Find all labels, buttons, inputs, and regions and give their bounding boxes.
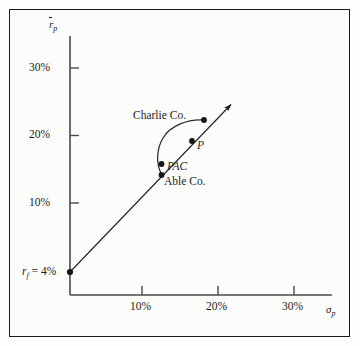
capital-market-line	[70, 105, 231, 273]
x-tick-label-20: 20%	[206, 300, 227, 312]
label-able-co: Able Co.	[164, 175, 206, 187]
y-axis-label: rp	[49, 18, 57, 33]
x-axis-label-subscript: p	[331, 309, 335, 318]
risk-free-subscript: f	[26, 271, 28, 280]
chart-plot-area	[0, 0, 360, 346]
y-tick-label-30: 30%	[29, 61, 50, 73]
y-axis-label-subscript: p	[53, 24, 57, 33]
point-risk-free	[67, 269, 73, 275]
label-charlie-co: Charlie Co.	[133, 109, 186, 121]
point-charlie-co	[201, 117, 207, 123]
x-tick-label-30: 30%	[282, 300, 303, 312]
figure-canvas: rp 30% 20% 10% rf = 4% 10% 20% 30% σp Ch…	[0, 0, 360, 346]
y-tick-label-10: 10%	[29, 196, 50, 208]
y-tick-label-20: 20%	[29, 128, 50, 140]
y-axis-label-symbol: r	[49, 18, 53, 30]
x-tick-label-10: 10%	[130, 300, 151, 312]
point-pac	[159, 161, 165, 167]
x-axis-label: σp	[326, 303, 335, 318]
label-p: P	[197, 139, 204, 151]
point-p	[189, 138, 195, 144]
risk-free-rate-label: rf = 4%	[22, 265, 56, 280]
risk-free-value: = 4%	[32, 265, 57, 277]
label-pac: PAC	[167, 160, 187, 172]
